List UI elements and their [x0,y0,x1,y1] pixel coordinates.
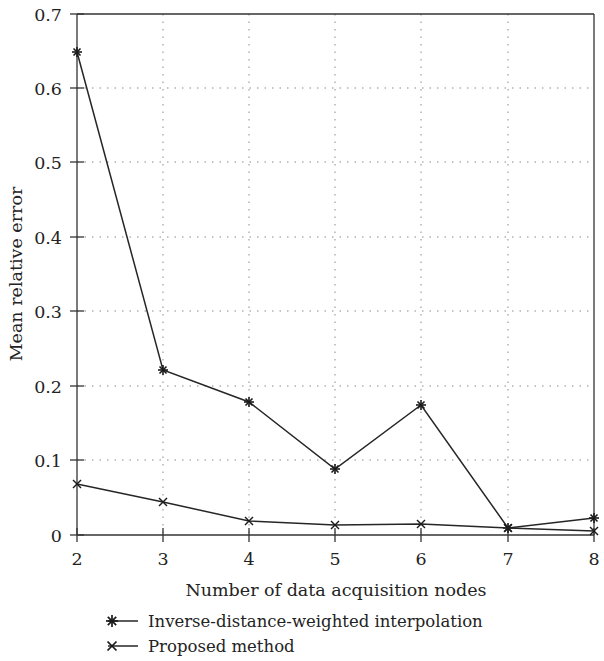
y-tick-label: 0.7 [34,5,62,25]
x-tick-label: 5 [329,549,340,569]
legend-label: Inverse-distance-weighted interpolation [148,612,483,631]
vertical-gridlines [163,14,508,535]
legend-item-inverse-distance-weighted-interpolation[interactable]: Inverse-distance-weighted interpolation [106,612,483,631]
figure-container: 0.7 0.6 0.5 0.4 0.3 0.2 0.1 0 2 3 4 5 6 … [0,0,604,661]
marker-asterisk-icon [330,464,340,474]
x-axis-title: Number of data acquisition nodes [185,580,486,600]
y-tick-label: 0.4 [34,228,62,248]
x-tick-label: 6 [415,549,426,569]
x-tick-label: 4 [243,549,254,569]
asterisk-icon [106,615,118,627]
x-tick-label: 8 [588,549,599,569]
y-tick-label: 0.5 [34,153,62,173]
y-tick-label: 0.3 [34,302,62,322]
y-tick-label: 0.2 [34,377,62,397]
x-tick-label: 7 [502,549,513,569]
y-tick-labels: 0.7 0.6 0.5 0.4 0.3 0.2 0.1 0 [34,5,62,546]
y-tick-label: 0.1 [34,451,62,471]
legend-item-proposed-method[interactable]: Proposed method [108,637,296,656]
marker-asterisk-icon [244,397,254,407]
y-axis-title: Mean relative error [6,186,26,361]
marker-asterisk-icon [158,365,168,375]
legend: Inverse-distance-weighted interpolation … [106,612,483,656]
x-tick-labels: 2 3 4 5 6 7 8 [71,549,599,569]
x-tick-label: 2 [71,549,82,569]
y-tick-label: 0.6 [34,79,62,99]
legend-label: Proposed method [148,637,295,656]
line-chart: 0.7 0.6 0.5 0.4 0.3 0.2 0.1 0 2 3 4 5 6 … [0,0,604,661]
x-tick-label: 3 [157,549,168,569]
marker-asterisk-icon [589,513,599,523]
y-tick-label: 0 [51,526,62,546]
marker-asterisk-icon [72,47,82,57]
marker-asterisk-icon [416,400,426,410]
